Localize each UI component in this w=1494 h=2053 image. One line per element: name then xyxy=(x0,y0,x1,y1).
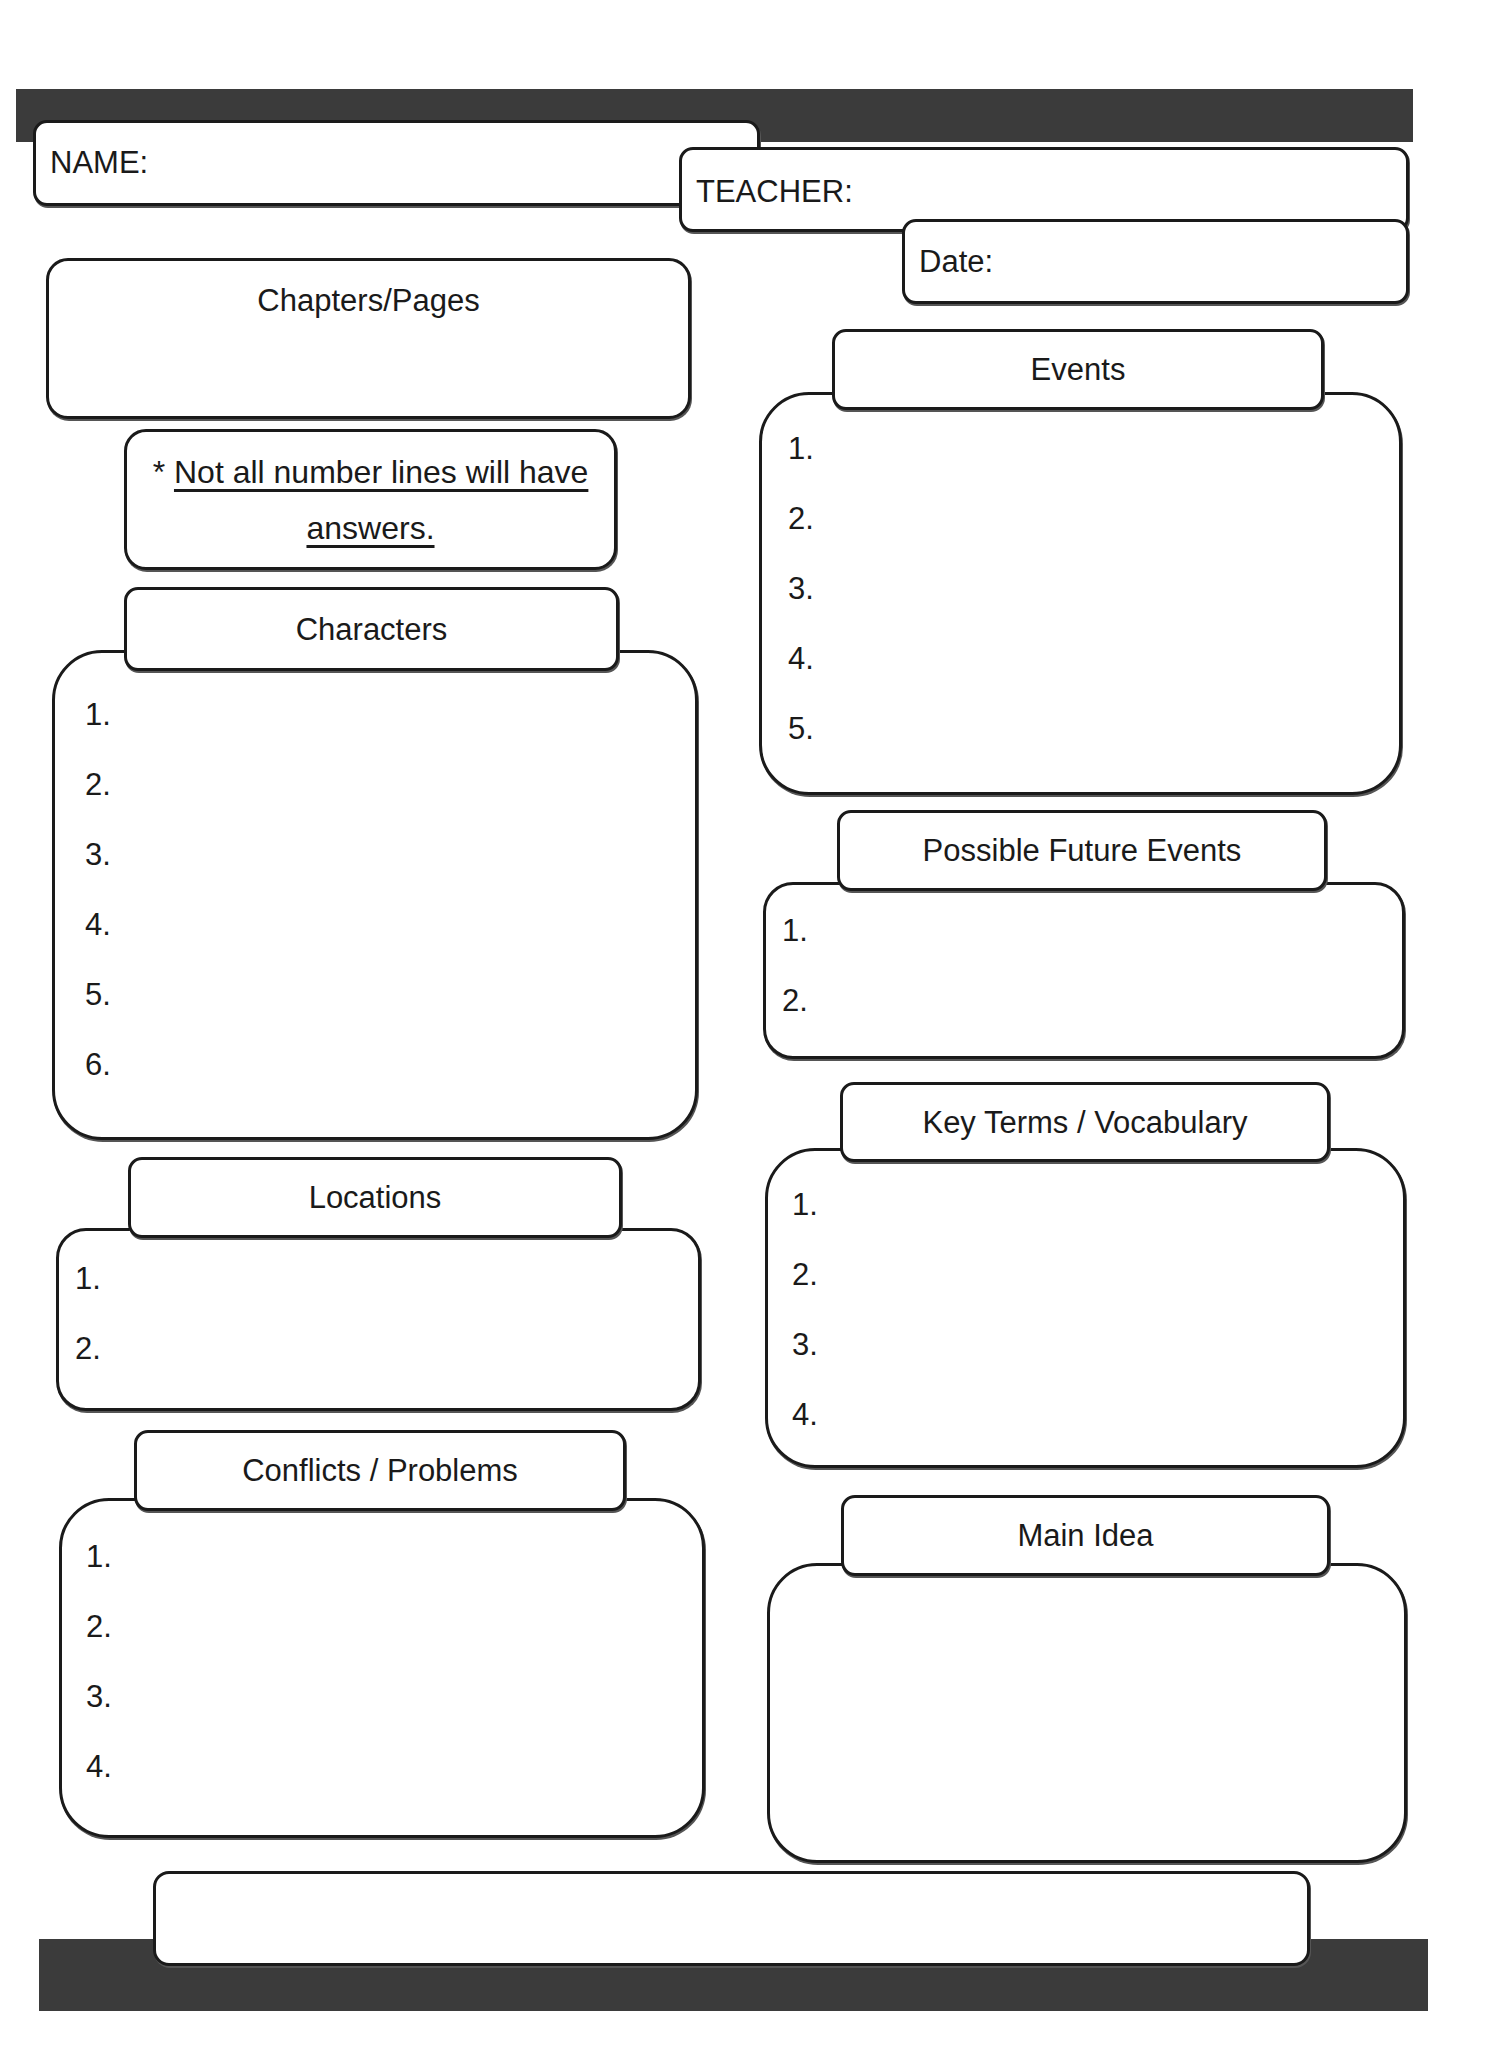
name-label: NAME: xyxy=(50,145,148,181)
conflicts-body[interactable]: 1. 2. 3. 4. xyxy=(59,1498,705,1838)
list-item: 3. xyxy=(788,571,814,607)
list-item: 1. xyxy=(788,431,814,467)
list-item: 3. xyxy=(792,1327,818,1363)
date-label: Date: xyxy=(919,244,993,280)
locations-body[interactable]: 1. 2. xyxy=(56,1228,701,1411)
events-body[interactable]: 1. 2. 3. 4. 5. xyxy=(759,392,1402,795)
chapters-pages-label: Chapters/Pages xyxy=(49,283,688,319)
name-field[interactable]: NAME: xyxy=(33,120,760,206)
key-terms-body[interactable]: 1. 2. 3. 4. xyxy=(765,1148,1406,1468)
list-item: 4. xyxy=(85,907,111,943)
note-line-2: answers. xyxy=(127,500,614,556)
note-line-1: * Not all number lines will have xyxy=(127,444,614,500)
instruction-note: * Not all number lines will have answers… xyxy=(124,429,617,570)
key-terms-title: Key Terms / Vocabulary xyxy=(843,1105,1327,1141)
list-item: 2. xyxy=(782,983,808,1019)
list-item: 1. xyxy=(792,1187,818,1223)
list-item: 2. xyxy=(75,1331,101,1367)
future-events-title: Possible Future Events xyxy=(840,833,1324,869)
note-text-2: answers. xyxy=(306,510,434,546)
list-item: 5. xyxy=(788,711,814,747)
chapters-pages-box[interactable]: Chapters/Pages xyxy=(46,258,691,419)
events-header: Events xyxy=(832,329,1324,410)
characters-title: Characters xyxy=(127,612,616,648)
bottom-notes-box[interactable] xyxy=(153,1871,1310,1966)
locations-header: Locations xyxy=(128,1157,622,1238)
list-item: 4. xyxy=(788,641,814,677)
list-item: 5. xyxy=(85,977,111,1013)
list-item: 1. xyxy=(86,1539,112,1575)
characters-header: Characters xyxy=(124,587,619,671)
note-text-1: Not all number lines will have xyxy=(174,454,588,490)
date-field[interactable]: Date: xyxy=(902,219,1409,304)
characters-body[interactable]: 1. 2. 3. 4. 5. 6. xyxy=(52,650,698,1140)
future-events-header: Possible Future Events xyxy=(837,810,1327,891)
events-title: Events xyxy=(835,352,1321,388)
list-item: 2. xyxy=(792,1257,818,1293)
list-item: 4. xyxy=(792,1397,818,1433)
main-idea-header: Main Idea xyxy=(841,1495,1330,1576)
list-item: 1. xyxy=(85,697,111,733)
conflicts-title: Conflicts / Problems xyxy=(137,1453,623,1489)
main-idea-title: Main Idea xyxy=(844,1518,1327,1554)
teacher-label: TEACHER: xyxy=(696,174,853,210)
list-item: 4. xyxy=(86,1749,112,1785)
list-item: 2. xyxy=(85,767,111,803)
list-item: 1. xyxy=(782,913,808,949)
locations-title: Locations xyxy=(131,1180,619,1216)
list-item: 2. xyxy=(788,501,814,537)
key-terms-header: Key Terms / Vocabulary xyxy=(840,1082,1330,1162)
future-events-body[interactable]: 1. 2. xyxy=(763,882,1405,1059)
main-idea-body[interactable] xyxy=(767,1563,1407,1863)
note-asterisk: * xyxy=(153,454,165,490)
list-item: 2. xyxy=(86,1609,112,1645)
list-item: 6. xyxy=(85,1047,111,1083)
conflicts-header: Conflicts / Problems xyxy=(134,1430,626,1511)
list-item: 3. xyxy=(85,837,111,873)
list-item: 3. xyxy=(86,1679,112,1715)
list-item: 1. xyxy=(75,1261,101,1297)
